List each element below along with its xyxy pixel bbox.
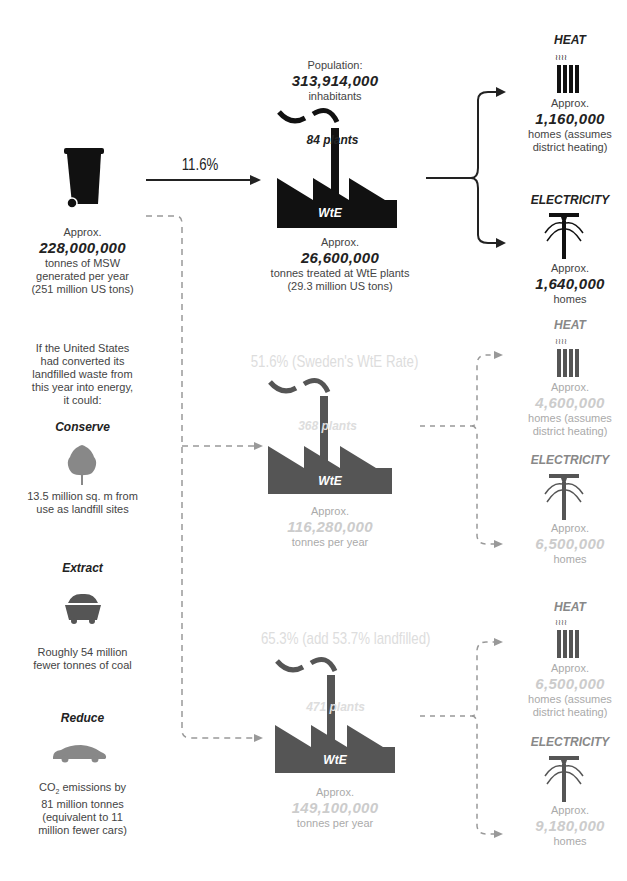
electricity-title: ELECTRICITY [515, 735, 625, 749]
heat-approx: Approx. [515, 97, 625, 110]
current-electricity-values: Approx. 1,640,000 homes [515, 262, 625, 306]
heat-value: 6,500,000 [515, 675, 625, 693]
benefit-conserve-text: 13.5 million sq. m from use as landfill … [20, 490, 145, 516]
population-unit: inhabitants [280, 90, 390, 103]
current-tonnes: 26,600,000 [265, 249, 415, 267]
sweden-heat-title: HEAT [520, 318, 620, 332]
co2-line: CO2 emissions by [20, 781, 145, 798]
benefit-reduce-text: CO2 emissions by 81 million tonnes (equi… [20, 781, 145, 837]
benefit-line: million fewer cars) [20, 824, 145, 837]
current-wte-label: WtE [300, 206, 360, 220]
power-pole-icon [543, 472, 585, 520]
heat-title: HEAT [520, 33, 620, 47]
full-plants: 471 plants [293, 700, 378, 714]
current-tonnes-block: Approx. 26,600,000 tonnes treated at WtE… [265, 236, 415, 293]
intro-line: had converted its [20, 355, 145, 368]
full-heat-values: Approx. 6,500,000 homes (assumes distric… [515, 662, 625, 719]
electricity-title: ELECTRICITY [515, 193, 625, 207]
svg-text:≀≀≀≀: ≀≀≀≀ [555, 618, 567, 627]
branch-connector-dashed [420, 353, 510, 553]
electricity-line1: homes [515, 835, 625, 848]
electricity-title: ELECTRICITY [515, 453, 625, 467]
sweden-rate: 51.6% (Sweden's WtE Rate) [251, 352, 384, 372]
heat-approx: Approx. [515, 381, 625, 394]
source-line1: tonnes of MSW [20, 257, 145, 270]
current-heat-block: HEAT [520, 33, 620, 47]
co2-prefix: CO [39, 781, 56, 793]
full-electricity-title: ELECTRICITY [515, 735, 625, 749]
population-value: 313,914,000 [280, 72, 390, 90]
current-electricity-block: ELECTRICITY [515, 193, 625, 207]
intro-line: it could: [20, 394, 145, 407]
current-tonnes-line1: tonnes treated at WtE plants [265, 267, 415, 280]
trash-bin-icon [64, 146, 106, 208]
sweden-plants: 368 plants [285, 419, 370, 433]
source-block: Approx. 228,000,000 tonnes of MSW genera… [20, 226, 145, 296]
benefit-line: 13.5 million sq. m from [20, 490, 145, 503]
benefit-line: (equivalent to 11 [20, 811, 145, 824]
radiator-icon: ≀≀≀≀ [553, 617, 583, 659]
full-tonnes-unit: tonnes per year [265, 817, 405, 830]
source-value: 228,000,000 [20, 239, 145, 257]
heat-line2: district heating) [515, 706, 625, 719]
population-block: Population: 313,914,000 inhabitants [280, 59, 390, 103]
benefit-extract-title: Extract [20, 561, 145, 575]
co2-suffix: emissions by [59, 781, 126, 793]
benefit-title: Extract [20, 561, 145, 575]
car-icon [53, 743, 107, 763]
current-heat-values: Approx. 1,160,000 homes (assumes distric… [515, 97, 625, 154]
sweden-tonnes-block: Approx. 116,280,000 tonnes per year [260, 505, 400, 549]
svg-text:≀≀≀≀: ≀≀≀≀ [555, 53, 567, 62]
heat-line1: homes (assumes [515, 412, 625, 425]
heat-line2: district heating) [515, 425, 625, 438]
source-line3: (251 million US tons) [20, 283, 145, 296]
branch-connector [426, 90, 506, 250]
branch-connector-dashed [420, 640, 510, 840]
source-approx: Approx. [20, 226, 145, 239]
tree-icon [66, 445, 98, 485]
radiator-icon: ≀≀≀≀ [553, 52, 583, 94]
intro-line: this year into energy, [20, 381, 145, 394]
heat-line1: homes (assumes [515, 128, 625, 141]
heat-title: HEAT [520, 318, 620, 332]
benefit-conserve-title: Conserve [20, 420, 145, 434]
heat-approx: Approx. [515, 662, 625, 675]
benefit-line: Roughly 54 million [20, 646, 145, 659]
sweden-approx: Approx. [260, 505, 400, 518]
intro-line: If the United States [20, 342, 145, 355]
electricity-approx: Approx. [515, 262, 625, 275]
arrow-right-icon [146, 175, 261, 185]
heat-value: 1,160,000 [515, 110, 625, 128]
heat-value: 4,600,000 [515, 394, 625, 412]
benefit-extract-text: Roughly 54 million fewer tonnes of coal [20, 646, 145, 672]
heat-title: HEAT [520, 600, 620, 614]
electricity-line1: homes [515, 553, 625, 566]
source-line2: generated per year [20, 270, 145, 283]
sweden-rate-label: 51.6% (Sweden's WtE Rate) [232, 352, 402, 372]
sweden-tonnes: 116,280,000 [260, 518, 400, 536]
current-plants: 84 plants [290, 133, 375, 147]
heat-line1: homes (assumes [515, 693, 625, 706]
full-wte-label: WtE [305, 753, 365, 767]
population-label: Population: [280, 59, 390, 72]
power-pole-icon [543, 211, 585, 259]
benefit-line: fewer tonnes of coal [20, 659, 145, 672]
electricity-value: 9,180,000 [515, 817, 625, 835]
sweden-electricity-title: ELECTRICITY [515, 453, 625, 467]
electricity-approx: Approx. [515, 522, 625, 535]
full-rate: 65.3% (add 53.7% landfilled) [261, 629, 409, 649]
full-rate-label: 65.3% (add 53.7% landfilled) [240, 629, 430, 649]
sweden-tonnes-unit: tonnes per year [260, 536, 400, 549]
electricity-value: 1,640,000 [515, 275, 625, 293]
sweden-wte-label: WtE [300, 474, 360, 488]
coal-cart-icon [64, 593, 102, 625]
heat-line2: district heating) [515, 141, 625, 154]
dashed-connector-left [146, 210, 266, 810]
sweden-electricity-values: Approx. 6,500,000 homes [515, 522, 625, 566]
benefit-title: Conserve [20, 420, 145, 434]
current-rate-label: 11.6% [160, 155, 240, 175]
current-tonnes-line2: (29.3 million US tons) [265, 280, 415, 293]
intro-line: landfilled waste from [20, 368, 145, 381]
current-approx: Approx. [265, 236, 415, 249]
electricity-line1: homes [515, 293, 625, 306]
